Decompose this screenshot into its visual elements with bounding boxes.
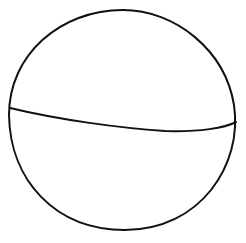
background (0, 0, 246, 243)
diagram-canvas (0, 0, 246, 243)
